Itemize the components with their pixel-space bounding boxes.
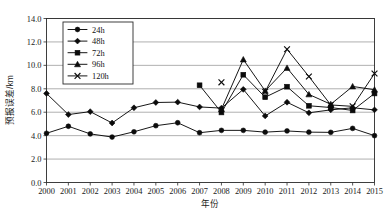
legend-marker-circle xyxy=(75,27,80,32)
x-axis-title: 年份 xyxy=(201,198,219,209)
legend-label: 72h xyxy=(92,49,105,58)
data-point-72h xyxy=(197,83,202,88)
data-point-24h xyxy=(219,128,224,133)
data-point-48h xyxy=(175,99,181,105)
x-tick-label: 2015 xyxy=(366,187,383,196)
data-point-72h xyxy=(241,72,246,77)
data-point-48h xyxy=(131,105,137,111)
y-axis-title: 预报误差/km xyxy=(4,75,15,125)
series-48h xyxy=(44,86,378,125)
y-axis-tick-labels: 0.02.04.06.08.010.012.014.0 xyxy=(27,15,42,188)
y-tick-label: 4.0 xyxy=(31,132,41,141)
data-point-24h xyxy=(175,120,180,125)
x-tick-label: 2002 xyxy=(82,187,99,196)
data-point-24h xyxy=(328,130,333,135)
series-line-48h xyxy=(47,89,375,123)
data-point-24h xyxy=(372,133,377,138)
x-tick-label: 2001 xyxy=(60,187,77,196)
data-point-24h xyxy=(241,128,246,133)
data-point-72h xyxy=(307,103,312,108)
x-tick-label: 2010 xyxy=(257,187,274,196)
x-tick-label: 2011 xyxy=(279,187,295,196)
x-tick-label: 2013 xyxy=(322,187,339,196)
data-point-72h xyxy=(263,95,268,100)
x-tick-label: 2006 xyxy=(169,187,186,196)
data-point-24h xyxy=(307,130,312,135)
data-point-24h xyxy=(197,130,202,135)
series-line-120h xyxy=(265,49,374,106)
series-96h xyxy=(218,57,377,112)
data-point-48h xyxy=(87,109,93,115)
data-point-24h xyxy=(263,130,268,135)
data-point-24h xyxy=(66,124,71,129)
series-line-72h xyxy=(200,75,375,113)
x-tick-label: 2009 xyxy=(235,187,252,196)
y-tick-label: 10.0 xyxy=(27,61,42,70)
x-tick-label: 2000 xyxy=(38,187,55,196)
y-tick-label: 12.0 xyxy=(27,38,42,47)
data-point-96h xyxy=(350,83,356,88)
series-24h xyxy=(44,120,377,139)
data-point-24h xyxy=(88,131,93,136)
legend-label: 120h xyxy=(92,72,110,81)
data-point-48h xyxy=(284,99,290,105)
x-axis-tick-labels: 2000200120022003200420052006200720082009… xyxy=(38,187,383,196)
data-point-48h xyxy=(197,104,203,110)
data-point-48h xyxy=(153,100,159,106)
data-point-24h xyxy=(132,129,137,134)
legend-marker-square xyxy=(75,50,80,55)
series-line-96h xyxy=(221,60,374,110)
data-point-96h xyxy=(240,57,246,62)
legend: 24h48h72h96h120h xyxy=(63,22,133,84)
legend-label: 96h xyxy=(92,60,105,69)
series-120h xyxy=(219,46,378,109)
data-point-24h xyxy=(285,129,290,134)
y-tick-label: 6.0 xyxy=(31,108,41,117)
x-tick-label: 2008 xyxy=(213,187,230,196)
x-tick-label: 2003 xyxy=(104,187,121,196)
data-point-24h xyxy=(153,123,158,128)
data-point-24h xyxy=(110,135,115,140)
data-point-24h xyxy=(44,131,49,136)
y-tick-label: 14.0 xyxy=(27,15,42,24)
data-point-48h xyxy=(306,110,312,116)
legend-label: 24h xyxy=(92,26,105,35)
chart-container: 0.02.04.06.08.010.012.014.0 200020012002… xyxy=(0,0,390,219)
data-point-96h xyxy=(284,65,290,70)
x-tick-label: 2005 xyxy=(147,187,164,196)
x-tick-label: 2014 xyxy=(344,187,362,196)
x-tick-label: 2012 xyxy=(301,187,318,196)
series-line-24h xyxy=(47,123,375,137)
data-point-48h xyxy=(109,120,115,126)
y-tick-label: 2.0 xyxy=(31,155,41,164)
data-point-24h xyxy=(350,126,355,131)
y-tick-label: 8.0 xyxy=(31,85,41,94)
line-chart: 0.02.04.06.08.010.012.014.0 200020012002… xyxy=(0,0,390,219)
data-point-72h xyxy=(285,84,290,89)
x-tick-label: 2004 xyxy=(126,187,144,196)
legend-label: 48h xyxy=(92,37,105,46)
x-tick-label: 2007 xyxy=(191,187,208,196)
